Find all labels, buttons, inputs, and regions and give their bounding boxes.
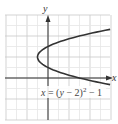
x-axis-label: x (111, 72, 117, 83)
parabola-graph: x y x = (y − 2)2 − 1 (0, 0, 118, 124)
grid (5, 15, 111, 120)
equation-label: x = (y − 2)2 − 1 (40, 86, 102, 99)
y-axis-label: y (42, 3, 48, 14)
y-axis-arrow-icon (46, 15, 51, 22)
